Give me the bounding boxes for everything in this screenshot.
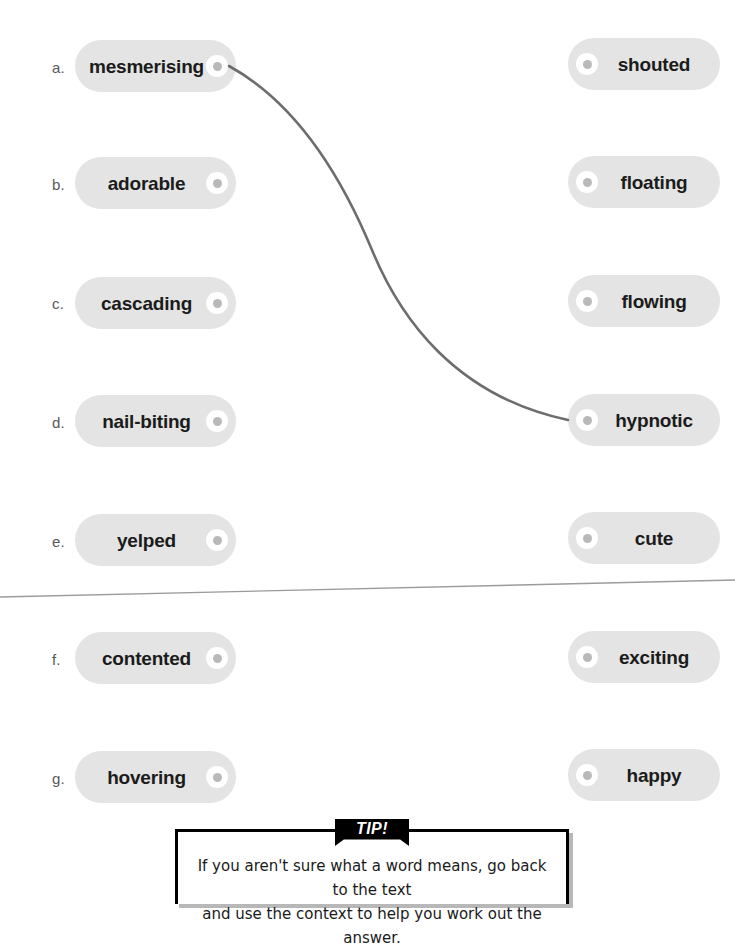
left-word-pill-adorable[interactable]: adorable bbox=[75, 157, 236, 209]
right-word-pill-cute[interactable]: cute bbox=[568, 512, 720, 564]
connector-node-right-flowing[interactable] bbox=[576, 290, 598, 312]
row-letter-g: g. bbox=[52, 771, 65, 786]
right-word-pill-floating[interactable]: floating bbox=[568, 156, 720, 208]
tip-text-line-2: and use the context to help you work out… bbox=[192, 902, 552, 947]
left-word-label: cascading bbox=[101, 294, 192, 313]
row-letter-d: d. bbox=[52, 415, 65, 430]
right-word-pill-flowing[interactable]: flowing bbox=[568, 275, 720, 327]
left-word-pill-hovering[interactable]: hovering bbox=[75, 751, 236, 803]
left-word-label: nail-biting bbox=[102, 412, 191, 431]
left-word-label: yelped bbox=[117, 531, 176, 550]
row-letter-c: c. bbox=[52, 296, 64, 311]
connector-node-right-shouted[interactable] bbox=[576, 53, 598, 75]
right-word-pill-happy[interactable]: happy bbox=[568, 749, 720, 801]
left-word-label: contented bbox=[102, 649, 191, 668]
left-word-pill-nail-biting[interactable]: nail-biting bbox=[75, 395, 236, 447]
row-letter-a: a. bbox=[52, 60, 65, 75]
right-word-label: exciting bbox=[619, 648, 689, 667]
tip-box: TIP! If you aren't sure what a word mean… bbox=[175, 829, 569, 904]
left-word-pill-yelped[interactable]: yelped bbox=[75, 514, 236, 566]
row-letter-e: e. bbox=[52, 534, 65, 549]
connector-node-left-c[interactable] bbox=[206, 292, 228, 314]
right-word-label: hypnotic bbox=[615, 411, 693, 430]
row-letter-b: b. bbox=[52, 177, 65, 192]
left-word-pill-cascading[interactable]: cascading bbox=[75, 277, 236, 329]
connector-node-right-exciting[interactable] bbox=[576, 646, 598, 668]
left-word-label: adorable bbox=[108, 174, 186, 193]
connector-node-left-e[interactable] bbox=[206, 529, 228, 551]
right-word-label: shouted bbox=[618, 55, 691, 74]
right-word-label: happy bbox=[627, 766, 682, 785]
connector-node-right-floating[interactable] bbox=[576, 171, 598, 193]
tip-banner-label: TIP! bbox=[356, 819, 388, 838]
connector-node-left-f[interactable] bbox=[206, 647, 228, 669]
left-word-label: mesmerising bbox=[89, 57, 204, 76]
right-word-label: floating bbox=[621, 173, 688, 192]
tip-banner: TIP! bbox=[335, 819, 409, 846]
right-word-label: cute bbox=[635, 529, 673, 548]
right-word-pill-exciting[interactable]: exciting bbox=[568, 631, 720, 683]
left-word-pill-mesmerising[interactable]: mesmerising bbox=[75, 40, 236, 92]
connection-curve-mesmerising-hypnotic bbox=[229, 66, 568, 420]
connector-node-left-d[interactable] bbox=[206, 410, 228, 432]
left-word-label: hovering bbox=[107, 768, 186, 787]
connector-node-left-a[interactable] bbox=[206, 55, 228, 77]
page-divider-line bbox=[0, 575, 735, 603]
row-letter-f: f. bbox=[52, 652, 61, 667]
right-word-label: flowing bbox=[621, 292, 686, 311]
tip-text: If you aren't sure what a word means, go… bbox=[178, 854, 566, 947]
connector-node-left-g[interactable] bbox=[206, 766, 228, 788]
connector-node-right-cute[interactable] bbox=[576, 527, 598, 549]
connector-node-right-hypnotic[interactable] bbox=[576, 409, 598, 431]
right-word-pill-hypnotic[interactable]: hypnotic bbox=[568, 394, 720, 446]
tip-text-line-1: If you aren't sure what a word means, go… bbox=[192, 854, 552, 902]
connector-node-left-b[interactable] bbox=[206, 172, 228, 194]
right-word-pill-shouted[interactable]: shouted bbox=[568, 38, 720, 90]
left-word-pill-contented[interactable]: contented bbox=[75, 632, 236, 684]
connector-node-right-happy[interactable] bbox=[576, 764, 598, 786]
